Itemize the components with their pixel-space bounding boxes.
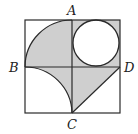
label-B: B bbox=[8, 60, 19, 75]
label-A: A bbox=[66, 3, 76, 18]
shaded-quarter-disc bbox=[25, 20, 72, 67]
geometry-diagram: A B C D bbox=[0, 0, 138, 134]
label-C: C bbox=[67, 117, 77, 132]
inscribed-circle bbox=[73, 20, 119, 66]
label-D: D bbox=[123, 60, 135, 75]
